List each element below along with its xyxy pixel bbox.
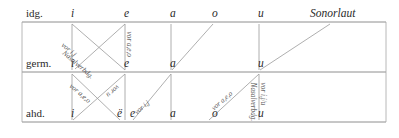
idg-e-to-germ-i — [75, 24, 125, 69]
idg-o-to-germ-a — [172, 24, 213, 70]
upper-connectors-group — [72, 24, 330, 70]
row-label-germ: germ. — [26, 58, 51, 69]
sonorlaut-label: Sonorlaut — [310, 8, 355, 20]
vowel-idg-o: o — [212, 8, 218, 20]
vowel-idg-i: i — [71, 8, 74, 20]
row-rules-group — [22, 22, 386, 122]
vowel-germ-e: e — [124, 58, 129, 70]
vowel-ahd-i: i — [71, 108, 74, 120]
ann-vor-i-j-u-lower: vor i,j/u — [258, 83, 265, 106]
vowel-ahd-a: a — [170, 108, 176, 120]
row-label-idg: idg. — [26, 8, 43, 19]
vowel-idg-a: a — [170, 8, 176, 20]
ann-vor-a-e-o-upper: vor a,e,o — [124, 32, 131, 57]
row-label-ahd: ahd. — [26, 108, 45, 119]
vowel-germ-a: a — [170, 58, 176, 70]
sonorlaut-to-germ-u — [260, 24, 330, 70]
vowel-development-diagram: idg.germ.ahd. ieaou ieau iëeaou Sonorlau… — [0, 0, 399, 138]
vowel-ahd-u: u — [258, 108, 264, 120]
vowel-idg-u: u — [258, 8, 264, 20]
vowel-germ-u: u — [258, 58, 264, 70]
vowel-idg-e: e — [124, 8, 129, 20]
vowel-ahd-ë: ë — [117, 108, 122, 120]
diagram-lines-layer — [0, 0, 399, 138]
ann-nasalverbdg-lower: Nasalverbdg. — [248, 83, 255, 122]
